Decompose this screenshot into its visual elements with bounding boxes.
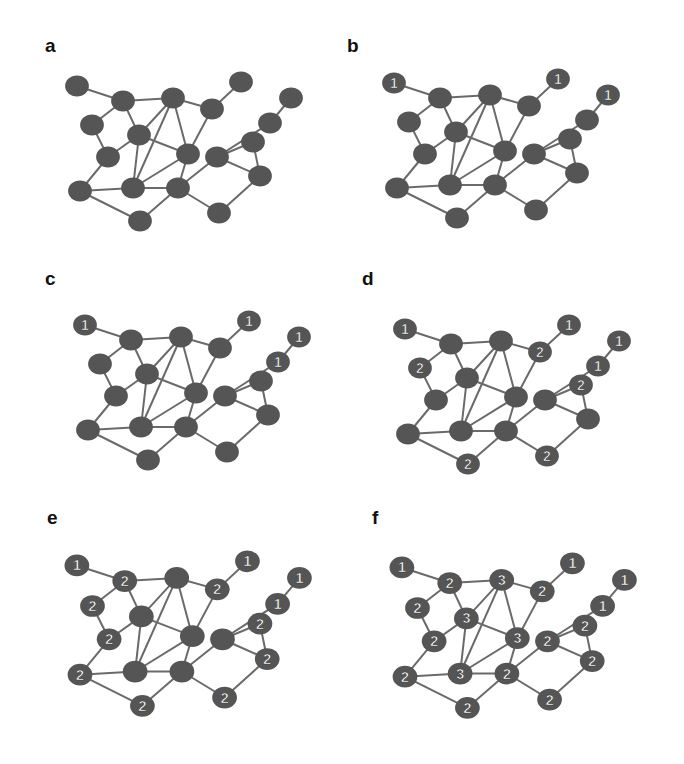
graph-node bbox=[166, 178, 190, 199]
node-depth-label: 2 bbox=[463, 699, 471, 716]
node-depth-label: 2 bbox=[577, 377, 585, 393]
graph-node bbox=[576, 409, 600, 430]
graph-node bbox=[80, 115, 104, 136]
graph-node bbox=[129, 417, 153, 438]
graph-node bbox=[424, 390, 448, 411]
graph-node bbox=[68, 181, 92, 202]
graph-node bbox=[104, 386, 128, 407]
node-depth-label: 2 bbox=[538, 582, 546, 599]
node-depth-label: 2 bbox=[263, 650, 271, 667]
node-depth-label: 2 bbox=[88, 597, 96, 614]
graph-node bbox=[483, 175, 507, 196]
graph-node bbox=[213, 386, 237, 407]
node-depth-label: 1 bbox=[615, 333, 623, 349]
node-depth-label: 3 bbox=[498, 571, 506, 588]
node-depth-label: 2 bbox=[416, 360, 424, 376]
graph-node bbox=[119, 330, 143, 351]
graph-node bbox=[208, 338, 232, 359]
graph-panel-c: 1111 bbox=[73, 311, 311, 471]
node-depth-label: 2 bbox=[76, 666, 84, 683]
graph-node bbox=[575, 110, 599, 131]
graph-node bbox=[385, 178, 409, 199]
graph-node bbox=[493, 141, 517, 162]
node-depth-label: 1 bbox=[594, 358, 602, 374]
graph-panel-a bbox=[65, 72, 303, 232]
graph-panel-e: 1221121222222 bbox=[65, 550, 312, 716]
node-depth-label: 1 bbox=[598, 597, 606, 614]
graph-node bbox=[522, 144, 546, 165]
node-depth-label: 1 bbox=[390, 75, 398, 91]
node-depth-label: 2 bbox=[545, 691, 553, 708]
graph-node bbox=[127, 125, 151, 146]
node-depth-label: 1 bbox=[604, 87, 612, 103]
graph-node bbox=[478, 85, 502, 106]
graph-node bbox=[439, 334, 463, 355]
graph-node bbox=[445, 208, 469, 229]
graph-node bbox=[207, 203, 231, 224]
node-depth-label: 2 bbox=[121, 572, 129, 589]
graph-node bbox=[533, 390, 557, 411]
graph-node bbox=[396, 424, 420, 445]
node-depth-label: 1 bbox=[620, 571, 628, 588]
graph-node bbox=[174, 417, 198, 438]
graph-node bbox=[229, 72, 253, 93]
graph-node bbox=[121, 178, 145, 199]
panel-label-a: a bbox=[45, 35, 56, 57]
panel-label-f: f bbox=[372, 507, 378, 529]
node-depth-label: 2 bbox=[105, 630, 113, 647]
graph-node bbox=[184, 383, 208, 404]
graph-node bbox=[164, 567, 189, 589]
node-depth-label: 2 bbox=[543, 632, 551, 649]
graph-node bbox=[397, 112, 421, 133]
graph-node bbox=[248, 166, 272, 187]
graph-node bbox=[215, 442, 239, 463]
graph-node bbox=[96, 147, 120, 168]
graph-panel-b: 111 bbox=[382, 69, 620, 229]
node-depth-label: 2 bbox=[256, 615, 264, 632]
node-depth-label: 2 bbox=[536, 344, 544, 360]
node-depth-label: 1 bbox=[295, 329, 303, 345]
graph-node bbox=[176, 144, 200, 165]
panel-label-e: e bbox=[47, 507, 58, 529]
graph-panel-d: 121121222 bbox=[393, 315, 631, 475]
graph-node bbox=[517, 96, 541, 117]
node-depth-label: 1 bbox=[245, 313, 253, 329]
graph-panel-f: 1232112312232223222 bbox=[390, 552, 637, 718]
node-depth-label: 2 bbox=[446, 574, 454, 591]
node-depth-label: 1 bbox=[401, 321, 409, 337]
graph-node bbox=[279, 88, 303, 109]
node-depth-label: 1 bbox=[565, 317, 573, 333]
graph-node bbox=[65, 76, 89, 97]
graph-node bbox=[494, 421, 518, 442]
node-depth-label: 1 bbox=[73, 556, 81, 573]
panel-label-b: b bbox=[347, 35, 359, 57]
node-depth-label: 1 bbox=[295, 569, 303, 586]
node-depth-label: 2 bbox=[464, 456, 472, 472]
node-depth-label: 2 bbox=[543, 448, 551, 464]
graph-node bbox=[135, 364, 159, 385]
graph-node bbox=[169, 327, 193, 348]
graph-node bbox=[128, 211, 152, 232]
node-depth-label: 2 bbox=[588, 652, 596, 669]
node-depth-label: 1 bbox=[274, 354, 282, 370]
node-depth-label: 1 bbox=[273, 595, 281, 612]
graph-node bbox=[88, 354, 112, 375]
graph-node bbox=[438, 175, 462, 196]
graph-canvas: 1111111121121222122112122222212321123122… bbox=[0, 0, 684, 764]
graph-node bbox=[558, 129, 582, 150]
node-depth-label: 2 bbox=[220, 689, 228, 706]
graph-node bbox=[249, 371, 273, 392]
graph-node bbox=[136, 450, 160, 471]
node-depth-label: 2 bbox=[503, 665, 511, 682]
node-depth-label: 3 bbox=[513, 629, 521, 646]
graph-node bbox=[444, 122, 468, 143]
node-depth-label: 2 bbox=[581, 617, 589, 634]
graph-node bbox=[180, 625, 205, 647]
node-depth-label: 2 bbox=[138, 697, 146, 714]
graph-node bbox=[241, 132, 265, 153]
node-depth-label: 2 bbox=[430, 632, 438, 649]
graph-node bbox=[205, 147, 229, 168]
node-depth-label: 2 bbox=[213, 580, 221, 597]
node-depth-label: 1 bbox=[398, 558, 406, 575]
graph-node bbox=[258, 113, 282, 134]
